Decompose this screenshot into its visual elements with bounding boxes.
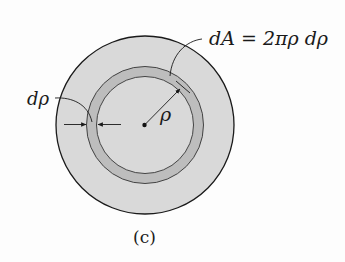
radius-label: ρ bbox=[160, 103, 171, 125]
figure-canvas: dA = 2πρ dρ dρ ρ (c) bbox=[0, 0, 345, 262]
area-element-label: dA = 2πρ dρ bbox=[209, 27, 328, 49]
figure-caption: (c) bbox=[133, 227, 156, 247]
thickness-label: dρ bbox=[27, 88, 49, 109]
